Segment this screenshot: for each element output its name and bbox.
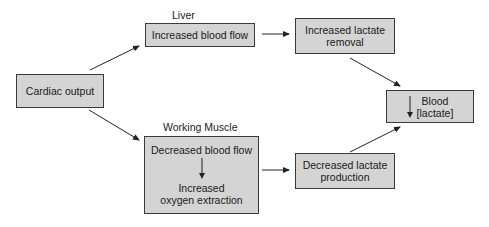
arrow-cardiac-to-muscle [89, 110, 139, 140]
lactate-production-line2: production [320, 171, 369, 183]
liver-label: Liver [172, 9, 195, 21]
down-arrow-icon [407, 95, 413, 119]
arrow-cardiac-to-liver [90, 46, 139, 70]
lactate-production-line1: Decreased lactate [303, 159, 388, 171]
oxygen-extraction-line2: oxygen extraction [160, 194, 242, 206]
arrow-production-to-blood [350, 127, 400, 152]
cardiac-output-text: Cardiac output [26, 85, 94, 97]
cardiac-output-box: Cardiac output [16, 74, 104, 108]
down-arrow-icon [199, 158, 205, 180]
lactate-removal-box: Increased lactate removal [295, 18, 395, 54]
working-muscle-label: Working Muscle [163, 121, 238, 133]
muscle-blood-flow-text: Decreased blood flow [151, 144, 252, 156]
arrow-removal-to-blood [350, 58, 400, 86]
lactate-removal-line2: removal [326, 36, 363, 48]
liver-blood-flow-box: Increased blood flow [145, 23, 255, 47]
blood-line1: Blood [422, 95, 449, 107]
lactate-production-box: Decreased lactate production [295, 153, 395, 189]
blood-lactate-box: Blood [lactate] [386, 90, 474, 123]
blood-line2: [lactate] [417, 107, 454, 119]
oxygen-extraction-line1: Increased [178, 182, 224, 194]
liver-blood-flow-text: Increased blood flow [152, 29, 248, 41]
lactate-removal-line1: Increased lactate [305, 24, 385, 36]
working-muscle-box: Decreased blood flow Increased oxygen ex… [144, 136, 259, 214]
